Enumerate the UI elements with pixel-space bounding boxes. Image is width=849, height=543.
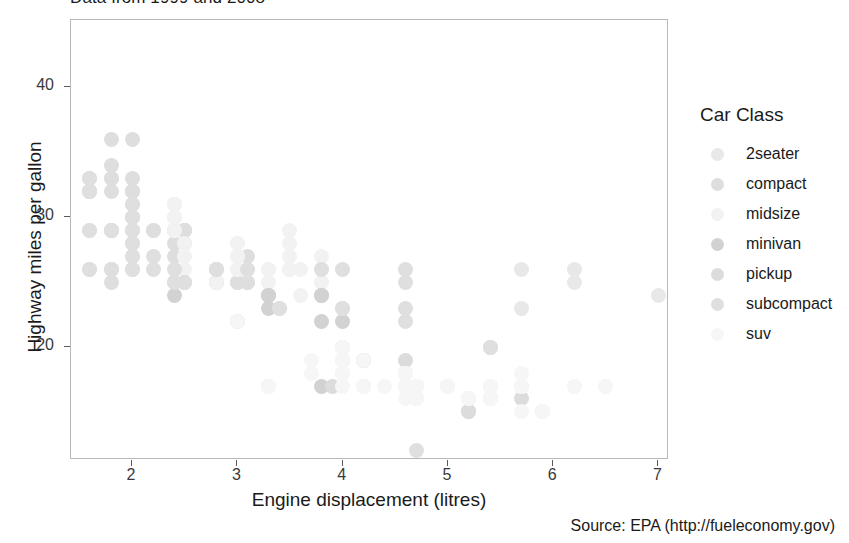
data-point bbox=[304, 366, 319, 381]
data-point bbox=[261, 379, 276, 394]
legend-items: 2seatercompactmidsizeminivanpickupsubcom… bbox=[700, 139, 832, 349]
data-point bbox=[177, 249, 192, 264]
data-point bbox=[483, 340, 498, 355]
data-point bbox=[82, 184, 97, 199]
data-point bbox=[409, 443, 424, 458]
data-point bbox=[82, 262, 97, 277]
data-point bbox=[398, 366, 413, 381]
y-tick-mark bbox=[64, 346, 70, 347]
legend-item-compact[interactable]: compact bbox=[700, 169, 832, 199]
legend-item-suv[interactable]: suv bbox=[700, 319, 832, 349]
data-point bbox=[125, 223, 140, 238]
legend-key bbox=[706, 263, 728, 285]
data-point bbox=[651, 288, 666, 303]
data-point bbox=[398, 275, 413, 290]
data-point bbox=[240, 262, 255, 277]
data-point bbox=[146, 249, 161, 264]
data-point bbox=[598, 379, 613, 394]
y-tick-mark bbox=[64, 86, 70, 87]
data-point bbox=[177, 275, 192, 290]
data-point bbox=[567, 379, 582, 394]
legend-item-subcompact[interactable]: subcompact bbox=[700, 289, 832, 319]
data-point bbox=[356, 379, 371, 394]
legend-label: midsize bbox=[746, 205, 800, 223]
data-point bbox=[167, 288, 182, 303]
legend-swatch-icon bbox=[711, 298, 724, 311]
legend-label: suv bbox=[746, 325, 771, 343]
data-point bbox=[293, 288, 308, 303]
data-point bbox=[209, 275, 224, 290]
legend-key bbox=[706, 143, 728, 165]
data-point bbox=[356, 353, 371, 368]
plot-panel bbox=[70, 19, 668, 459]
legend-label: minivan bbox=[746, 235, 801, 253]
data-point bbox=[514, 379, 529, 394]
data-point bbox=[314, 288, 329, 303]
data-point bbox=[314, 314, 329, 329]
legend-label: subcompact bbox=[746, 295, 832, 313]
data-point bbox=[82, 223, 97, 238]
data-point bbox=[230, 275, 245, 290]
legend-label: pickup bbox=[746, 265, 792, 283]
data-point bbox=[335, 314, 350, 329]
data-point bbox=[409, 391, 424, 406]
y-tick-mark bbox=[64, 216, 70, 217]
data-point bbox=[314, 262, 329, 277]
data-point bbox=[104, 275, 119, 290]
data-point bbox=[567, 275, 582, 290]
legend-key bbox=[706, 233, 728, 255]
x-tick-label: 4 bbox=[322, 466, 362, 484]
data-point bbox=[104, 132, 119, 147]
x-tick-label: 2 bbox=[111, 466, 151, 484]
data-point bbox=[335, 301, 350, 316]
legend-label: 2seater bbox=[746, 145, 799, 163]
data-point bbox=[104, 184, 119, 199]
data-point bbox=[146, 223, 161, 238]
data-point bbox=[535, 404, 550, 419]
legend-swatch-icon bbox=[711, 148, 724, 161]
data-point bbox=[483, 379, 498, 394]
legend-item-2seater[interactable]: 2seater bbox=[700, 139, 832, 169]
data-point bbox=[514, 301, 529, 316]
data-point bbox=[335, 262, 350, 277]
legend-swatch-icon bbox=[711, 328, 724, 341]
y-tick-label: 40 bbox=[36, 76, 54, 94]
data-point bbox=[146, 262, 161, 277]
legend-item-pickup[interactable]: pickup bbox=[700, 259, 832, 289]
legend-swatch-icon bbox=[711, 238, 724, 251]
data-point bbox=[125, 132, 140, 147]
data-point bbox=[377, 379, 392, 394]
chart-caption: Source: EPA (http://fueleconomy.gov) bbox=[0, 517, 835, 535]
data-point bbox=[104, 262, 119, 277]
legend-swatch-icon bbox=[711, 178, 724, 191]
x-axis-label: Engine displacement (litres) bbox=[70, 489, 668, 511]
data-point bbox=[335, 366, 350, 381]
data-point bbox=[483, 391, 498, 406]
data-point bbox=[167, 210, 182, 225]
legend-item-midsize[interactable]: midsize bbox=[700, 199, 832, 229]
data-point bbox=[335, 379, 350, 394]
y-axis-label: Highway miles per gallon bbox=[24, 97, 46, 397]
data-point bbox=[104, 223, 119, 238]
x-tick-label: 6 bbox=[532, 466, 572, 484]
data-point bbox=[440, 379, 455, 394]
data-point bbox=[272, 301, 287, 316]
legend-item-minivan[interactable]: minivan bbox=[700, 229, 832, 259]
data-point bbox=[514, 262, 529, 277]
data-point bbox=[177, 236, 192, 251]
data-point bbox=[461, 391, 476, 406]
legend-label: compact bbox=[746, 175, 806, 193]
legend-key bbox=[706, 293, 728, 315]
data-point bbox=[125, 262, 140, 277]
legend-swatch-icon bbox=[711, 208, 724, 221]
data-point bbox=[209, 262, 224, 277]
data-point bbox=[409, 379, 424, 394]
data-point bbox=[167, 223, 182, 238]
data-point bbox=[514, 404, 529, 419]
legend: Car Class 2seatercompactmidsizeminivanpi… bbox=[700, 104, 832, 349]
x-tick-label: 5 bbox=[427, 466, 467, 484]
data-point bbox=[230, 314, 245, 329]
legend-key bbox=[706, 173, 728, 195]
data-point bbox=[398, 314, 413, 329]
data-point bbox=[461, 404, 476, 419]
